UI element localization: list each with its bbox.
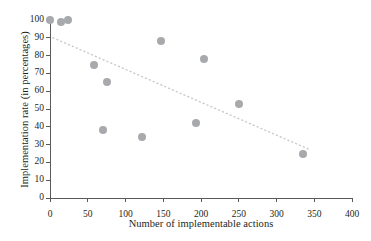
x-tick-mark	[87, 198, 88, 202]
y-tick-label-text: 40	[20, 122, 44, 132]
y-tick-label-text: 50	[20, 104, 44, 114]
y-tick-label: 90	[16, 33, 44, 43]
data-point	[299, 150, 307, 158]
y-tick-label-text: 70	[20, 68, 44, 78]
x-tick-mark	[125, 198, 126, 202]
y-tick-label-text: 0	[20, 193, 44, 203]
x-tick-mark	[276, 198, 277, 202]
x-tick-mark	[314, 198, 315, 202]
data-point	[64, 16, 72, 24]
scatter-plot-figure: Implementation rate (in percentages) Num…	[0, 0, 371, 241]
x-tick-label: 400	[334, 203, 370, 221]
y-tick-mark	[46, 162, 50, 163]
x-tick-label: 250	[221, 203, 257, 221]
y-tick-label-text: 100	[20, 15, 44, 25]
x-tick-label: 200	[183, 203, 219, 221]
trendline	[53, 38, 310, 150]
x-tick-mark	[352, 198, 353, 202]
x-tick-label: 350	[296, 203, 332, 221]
data-point	[235, 100, 243, 108]
x-tick-mark	[163, 198, 164, 202]
x-tick-label: 300	[259, 203, 295, 221]
y-tick-mark	[46, 109, 50, 110]
y-tick-label-text: 60	[20, 86, 44, 96]
y-tick-label-text: 20	[20, 157, 44, 167]
x-tick-label: 150	[145, 203, 181, 221]
y-tick-label: 30	[16, 140, 44, 150]
data-point	[157, 37, 165, 45]
x-tick-mark	[238, 198, 239, 202]
y-tick-label: 20	[16, 157, 44, 167]
x-tick-label-text: 150	[156, 209, 170, 219]
x-tick-label-text: 400	[345, 209, 359, 219]
x-tick-label-text: 200	[194, 209, 208, 219]
x-tick-label-text: 0	[48, 209, 53, 219]
y-tick-label: 40	[16, 122, 44, 132]
data-point	[90, 61, 98, 69]
y-tick-mark	[46, 73, 50, 74]
x-tick-label: 100	[108, 203, 144, 221]
y-tick-mark	[46, 37, 50, 38]
y-tick-mark	[46, 55, 50, 56]
y-tick-label-text: 10	[20, 175, 44, 185]
x-tick-label: 0	[32, 203, 68, 221]
x-tick-label: 50	[70, 203, 106, 221]
data-point	[99, 126, 107, 134]
y-tick-label: 60	[16, 86, 44, 96]
data-point	[192, 119, 200, 127]
x-tick-mark	[201, 198, 202, 202]
y-tick-label: 100	[16, 15, 44, 25]
y-tick-label: 70	[16, 68, 44, 78]
y-tick-label: 10	[16, 175, 44, 185]
x-tick-label-text: 350	[307, 209, 321, 219]
x-tick-label-text: 300	[269, 209, 283, 219]
y-tick-label: 0	[16, 193, 44, 203]
x-tick-mark	[50, 198, 51, 202]
x-tick-label-text: 100	[118, 209, 132, 219]
y-tick-label: 80	[16, 51, 44, 61]
data-point	[138, 133, 146, 141]
y-tick-label: 50	[16, 104, 44, 114]
y-tick-mark	[46, 180, 50, 181]
data-point	[103, 78, 111, 86]
y-tick-mark	[46, 91, 50, 92]
y-tick-mark	[46, 126, 50, 127]
y-tick-mark	[46, 144, 50, 145]
y-tick-label-text: 80	[20, 51, 44, 61]
y-tick-label-text: 90	[20, 33, 44, 43]
y-tick-label-text: 30	[20, 140, 44, 150]
data-point	[46, 16, 54, 24]
x-tick-label-text: 250	[232, 209, 246, 219]
data-point	[200, 55, 208, 63]
x-tick-label-text: 50	[83, 209, 93, 219]
